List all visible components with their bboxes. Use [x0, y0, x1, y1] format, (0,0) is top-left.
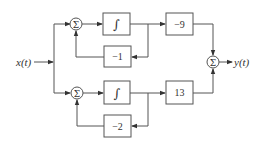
top-output-gain-value: −9 — [174, 19, 185, 30]
bottom-integrator-block: ∫ — [104, 81, 130, 104]
top-feedback-gain-value: −1 — [112, 51, 123, 62]
input-label: x(t) — [15, 56, 32, 69]
bottom-output-gain-block: 13 — [166, 81, 193, 104]
output-summer: Σ — [207, 56, 219, 68]
sigma-icon: Σ — [73, 20, 79, 30]
top-feedback-gain-block: −1 — [104, 46, 131, 67]
block-diagram: x(t) Σ ∫ −1 −9 Σ ∫ −2 — [0, 0, 272, 145]
bottom-summer: Σ — [71, 87, 83, 99]
bottom-output-gain-value: 13 — [175, 87, 185, 98]
bottom-feedback-gain-value: −2 — [112, 121, 123, 132]
integral-icon: ∫ — [113, 17, 120, 32]
top-integrator-block: ∫ — [103, 13, 130, 35]
sigma-icon: Σ — [74, 89, 80, 99]
sigma-icon: Σ — [210, 58, 216, 68]
top-summer: Σ — [70, 18, 82, 30]
integral-icon: ∫ — [114, 86, 121, 101]
output-label: y(t) — [233, 56, 250, 69]
top-output-gain-block: −9 — [166, 13, 193, 35]
bottom-feedback-gain-block: −2 — [104, 115, 131, 137]
